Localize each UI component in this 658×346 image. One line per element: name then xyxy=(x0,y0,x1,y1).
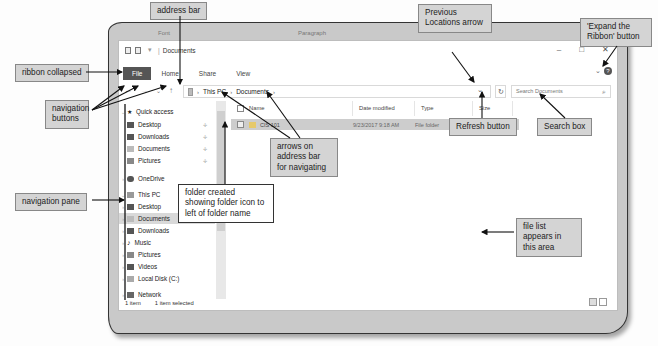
tab-share[interactable]: Share xyxy=(189,70,226,77)
crumb-this-pc[interactable]: This PC xyxy=(203,88,226,95)
navigation-row: ← → ⌄ ↑ › This PC › Documents › ⌄ ↻ Sear… xyxy=(119,84,617,99)
minimize-button[interactable]: – xyxy=(557,45,561,54)
pictures-icon xyxy=(127,252,134,258)
background-ribbon: Font Paragraph xyxy=(122,28,612,40)
address-bar[interactable]: › This PC › Documents › xyxy=(183,85,491,98)
nav-item-onedrive[interactable]: ›OneDrive xyxy=(119,173,215,184)
download-icon xyxy=(127,228,134,234)
nav-item-videos[interactable]: ›Videos xyxy=(119,261,215,272)
large-icons-view-icon[interactable] xyxy=(599,298,607,306)
up-button[interactable]: ↑ xyxy=(169,86,173,95)
callout-navigation-buttons: navigation buttons xyxy=(45,100,89,129)
callout-previous-locations: Previous Locations arrow xyxy=(418,4,492,33)
nav-item-network[interactable]: ›Network xyxy=(119,289,215,300)
previous-locations-arrow[interactable]: ⌄ xyxy=(477,86,483,94)
help-icon[interactable]: ? xyxy=(604,67,612,75)
expand-ribbon-button[interactable]: ⌄ xyxy=(595,67,601,75)
navigation-buttons: ← → ⌄ ↑ xyxy=(124,86,173,95)
details-view-icon[interactable] xyxy=(589,298,597,306)
network-icon xyxy=(127,292,134,298)
videos-icon xyxy=(127,264,134,270)
callout-address-bar: address bar xyxy=(150,2,207,20)
pictures-icon xyxy=(127,158,134,164)
folder-icon xyxy=(249,122,256,128)
forward-button[interactable]: → xyxy=(140,86,148,95)
callout-folder-created: folder created showing folder icon to le… xyxy=(178,184,274,223)
column-headers: Name Date modified Type Size xyxy=(231,101,513,116)
column-size[interactable]: Size xyxy=(473,101,513,116)
pin-icon: ✢ xyxy=(203,134,207,140)
tab-file[interactable]: File xyxy=(123,67,151,80)
nav-item-pictures[interactable]: Pictures✢ xyxy=(119,155,215,166)
tab-view[interactable]: View xyxy=(226,70,260,77)
status-bar: 1 item 1 item selected xyxy=(125,300,194,306)
search-placeholder: Search Documents xyxy=(516,88,563,94)
disk-icon xyxy=(127,276,134,282)
callout-file-list-area: file list appears in this area xyxy=(516,218,582,257)
properties-icon[interactable] xyxy=(125,47,131,54)
recent-locations-button[interactable]: ⌄ xyxy=(156,87,161,94)
back-button[interactable]: ← xyxy=(124,86,132,95)
location-icon xyxy=(188,88,193,96)
ribbon-tabs: File Home Share View xyxy=(119,66,260,80)
address-arrow[interactable]: › xyxy=(197,89,199,95)
nav-item-local-disk[interactable]: ›Local Disk (C:) xyxy=(119,273,215,284)
window-title: Documents xyxy=(163,47,196,54)
callout-refresh-button: Refresh button xyxy=(449,118,517,136)
file-name: CIS 101 xyxy=(260,122,280,128)
nav-item-music[interactable]: ›♪Music xyxy=(119,237,215,248)
font-group-label: Font xyxy=(158,30,170,36)
file-explorer-window: ▾ | Documents – □ ✕ File Home Share View… xyxy=(118,40,618,311)
desktop-folder-icon xyxy=(127,122,134,128)
item-count: 1 item xyxy=(125,300,141,306)
nav-item-pictures-pc[interactable]: ›Pictures xyxy=(119,249,215,260)
title-bar: ▾ | Documents xyxy=(119,41,617,59)
row-checkbox[interactable] xyxy=(237,121,244,128)
document-icon xyxy=(127,146,134,152)
tab-home[interactable]: Home xyxy=(151,70,188,77)
nav-item-quick-access[interactable]: ⌄★Quick access xyxy=(119,106,215,117)
document-icon xyxy=(127,216,134,222)
star-icon: ★ xyxy=(127,108,132,115)
address-arrow[interactable]: › xyxy=(273,89,275,95)
callout-search-box: Search box xyxy=(537,118,592,136)
selected-count: 1 item selected xyxy=(155,300,194,306)
crumb-documents[interactable]: Documents xyxy=(236,88,269,95)
desktop-folder-icon xyxy=(127,204,134,210)
callout-ribbon-collapsed: ribbon collapsed xyxy=(15,64,89,82)
address-arrow[interactable]: › xyxy=(230,89,232,95)
new-folder-icon[interactable] xyxy=(135,47,141,54)
pin-icon: ✢ xyxy=(203,158,207,164)
callout-arrows-address-bar: arrows on address bar for navigating xyxy=(270,138,338,177)
search-icon: ⌕ xyxy=(602,86,606,97)
select-all-checkbox[interactable] xyxy=(237,105,244,112)
file-date: 9/23/2017 9:18 AM xyxy=(353,122,415,128)
column-type[interactable]: Type xyxy=(415,101,473,116)
download-icon xyxy=(127,134,134,140)
paragraph-group-label: Paragraph xyxy=(298,30,326,36)
nav-item-downloads-pc[interactable]: ›Downloads xyxy=(119,225,215,236)
callout-navigation-pane: navigation pane xyxy=(15,193,87,211)
column-name[interactable]: Name xyxy=(231,101,353,116)
pin-icon: ✢ xyxy=(203,122,207,128)
refresh-button[interactable]: ↻ xyxy=(495,85,506,98)
nav-item-desktop[interactable]: Desktop✢ xyxy=(119,119,215,130)
column-date-modified[interactable]: Date modified xyxy=(353,101,415,116)
nav-item-documents[interactable]: Documents✢ xyxy=(119,143,215,154)
search-box[interactable]: Search Documents ⌕ xyxy=(511,85,611,98)
computer-icon xyxy=(127,192,134,198)
callout-expand-ribbon: 'Expand the Ribbon' button xyxy=(580,18,652,47)
music-icon: ♪ xyxy=(127,239,131,246)
view-buttons xyxy=(589,298,607,306)
expand-ribbon-area: ⌄ ? xyxy=(595,67,612,75)
nav-item-downloads[interactable]: Downloads✢ xyxy=(119,131,215,142)
cloud-icon xyxy=(127,176,134,182)
pin-icon: ✢ xyxy=(203,146,207,152)
customize-qat-icon[interactable]: ▾ xyxy=(148,46,152,54)
